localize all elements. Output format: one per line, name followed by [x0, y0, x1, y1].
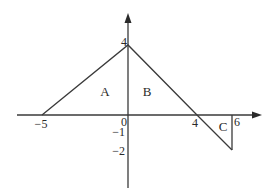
x-axis: [17, 112, 262, 119]
x-tick-label: 6: [234, 115, 240, 129]
piecewise-graph-diagram: −5 0 4 6 4 −1 −2 A B C: [0, 0, 276, 196]
x-tick-label: 4: [192, 116, 198, 130]
x-tick-label: −5: [35, 117, 48, 131]
region-label-a: A: [100, 84, 110, 99]
y-tick-label: 4: [121, 35, 127, 49]
y-tick-label: −1: [112, 125, 125, 139]
x-axis-arrow-icon: [252, 112, 262, 119]
graph-line: [42, 45, 232, 150]
y-tick-label: −2: [112, 144, 125, 158]
y-axis-arrow-icon: [125, 13, 132, 23]
region-label-c: C: [219, 119, 228, 134]
region-label-b: B: [143, 84, 152, 99]
